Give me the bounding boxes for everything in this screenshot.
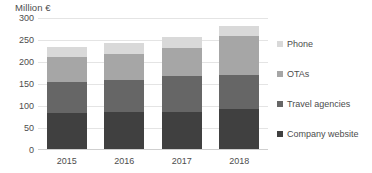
bar-group[interactable] xyxy=(219,26,259,149)
plot-area xyxy=(38,18,268,150)
x-tick-label: 2017 xyxy=(158,156,206,166)
x-tick-label: 2015 xyxy=(43,156,91,166)
bar-segment[interactable] xyxy=(162,48,202,77)
legend-item[interactable]: Travel agencies xyxy=(277,98,350,110)
y-tick-label: 150 xyxy=(0,80,34,89)
bar-segment[interactable] xyxy=(162,112,202,149)
legend-item-label: OTAs xyxy=(287,70,309,79)
bar-segment[interactable] xyxy=(104,54,144,80)
legend-item-label: Company website xyxy=(287,130,359,139)
legend-item-label: Phone xyxy=(287,40,313,49)
bar-segment[interactable] xyxy=(162,37,202,48)
bar-segment[interactable] xyxy=(219,26,259,36)
y-tick-label: 0 xyxy=(0,146,34,155)
y-axis-unit-title: Million € xyxy=(15,2,51,13)
x-tick-label: 2016 xyxy=(100,156,148,166)
bar-segment[interactable] xyxy=(104,43,144,53)
bar-segment[interactable] xyxy=(104,80,144,112)
legend-item[interactable]: OTAs xyxy=(277,68,309,80)
legend-item-label: Travel agencies xyxy=(287,100,350,109)
y-tick-label: 100 xyxy=(0,102,34,111)
bar-group[interactable] xyxy=(47,47,87,149)
bar-segment[interactable] xyxy=(219,75,259,109)
x-axis-line xyxy=(38,149,268,150)
bar-group[interactable] xyxy=(104,43,144,149)
legend-swatch-icon xyxy=(277,131,283,137)
legend-swatch-icon xyxy=(277,41,283,47)
bar-segment[interactable] xyxy=(104,112,144,149)
y-tick-label: 200 xyxy=(0,58,34,67)
x-axis-tick-labels: 2015201620172018 xyxy=(38,152,268,170)
legend-item[interactable]: Company website xyxy=(277,128,359,140)
bar-segment[interactable] xyxy=(47,82,87,113)
legend-item[interactable]: Phone xyxy=(277,38,313,50)
bar-segment[interactable] xyxy=(47,57,87,83)
bar-segment[interactable] xyxy=(47,47,87,57)
y-axis-tick-labels: 300250200150100500 xyxy=(0,18,34,150)
bar-segment[interactable] xyxy=(162,76,202,111)
chart-legend: PhoneOTAsTravel agenciesCompany website xyxy=(277,38,372,134)
y-tick-label: 300 xyxy=(0,14,34,23)
bar-group[interactable] xyxy=(162,37,202,149)
bar-segment[interactable] xyxy=(219,109,259,149)
y-tick-label: 50 xyxy=(0,124,34,133)
bars-layer xyxy=(38,18,268,150)
x-tick-label: 2018 xyxy=(215,156,263,166)
bar-segment[interactable] xyxy=(47,113,87,149)
legend-swatch-icon xyxy=(277,101,283,107)
y-tick-label: 250 xyxy=(0,36,34,45)
legend-swatch-icon xyxy=(277,71,283,77)
bar-segment[interactable] xyxy=(219,36,259,76)
stacked-bar-chart: Million € 300250200150100500 20152016201… xyxy=(0,0,372,173)
